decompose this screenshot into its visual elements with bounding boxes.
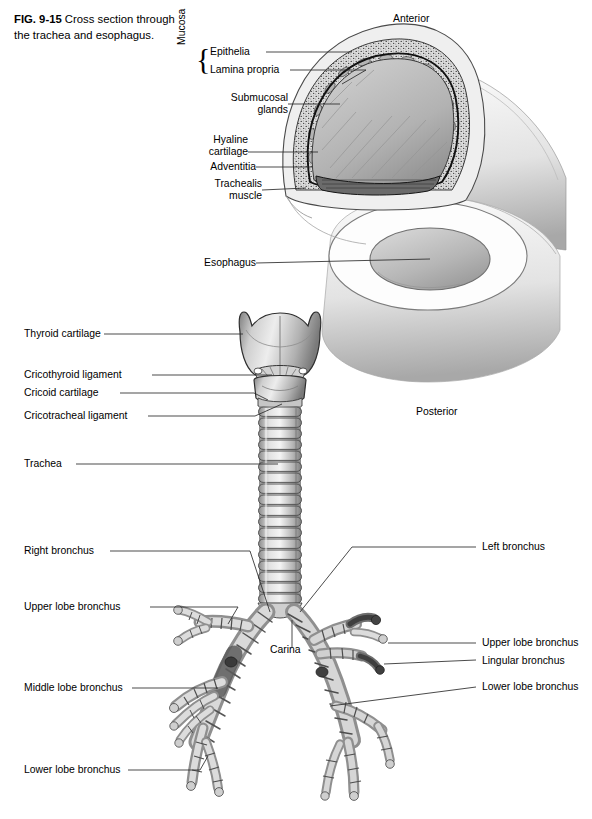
label-trachea: Trachea xyxy=(24,458,62,470)
label-right-upper-lobe-bronchus: Upper lobe bronchus xyxy=(24,601,120,613)
left-upper-lobe-branch xyxy=(314,615,387,643)
label-adventitia: Adventitia xyxy=(186,161,256,173)
airway-tree xyxy=(170,312,395,800)
label-epithelia: Epithelia xyxy=(210,46,250,58)
label-left-upper-lobe-bronchus: Upper lobe bronchus xyxy=(482,637,578,649)
left-bronchus-branch xyxy=(288,612,394,800)
label-cricothyroid-ligament: Cricothyroid ligament xyxy=(24,369,122,381)
label-anterior: Anterior xyxy=(393,13,429,25)
label-lingular-bronchus: Lingular bronchus xyxy=(482,655,565,667)
label-left-bronchus: Left bronchus xyxy=(482,541,545,553)
figure-number: FIG. 9-15 xyxy=(14,13,62,25)
label-middle-lobe-bronchus: Middle lobe bronchus xyxy=(24,682,123,694)
cricoid-cartilage-shape xyxy=(254,376,306,403)
label-trachealis-line1: Trachealis xyxy=(186,178,262,190)
mucosa-group-label: Mucosa xyxy=(176,9,187,45)
label-left-lower-lobe-bronchus: Lower lobe bronchus xyxy=(482,681,578,693)
right-bronchus-branch xyxy=(170,606,273,797)
trachea-cylinder-specimen xyxy=(283,24,566,382)
label-carina: Carina xyxy=(270,644,301,656)
label-posterior: Posterior xyxy=(416,406,458,418)
mucosa-brace: { xyxy=(196,44,210,74)
label-lamina-propria: Lamina propria xyxy=(210,64,279,76)
label-esophagus: Esophagus xyxy=(176,257,256,269)
label-thyroid-cartilage: Thyroid cartilage xyxy=(24,328,101,340)
label-trachealis-line2: muscle xyxy=(186,190,262,202)
left-lower-lobe-branch xyxy=(321,702,395,800)
label-right-bronchus: Right bronchus xyxy=(24,545,94,557)
label-hyaline-cartilage-line1: Hyaline xyxy=(186,134,248,146)
label-right-lower-lobe-bronchus: Lower lobe bronchus xyxy=(24,764,120,776)
label-submucosal-glands-line2: glands xyxy=(184,104,288,116)
label-submucosal-glands-line1: Submucosal xyxy=(184,92,288,104)
figure-caption: FIG. 9-15 Cross section through the trac… xyxy=(14,12,189,43)
label-hyaline-cartilage-line2: cartilage xyxy=(186,146,248,158)
figure-canvas: FIG. 9-15 Cross section through the trac… xyxy=(0,0,592,819)
label-cricotracheal-ligament: Cricotracheal ligament xyxy=(24,410,127,422)
label-cricoid-cartilage: Cricoid cartilage xyxy=(24,387,99,399)
